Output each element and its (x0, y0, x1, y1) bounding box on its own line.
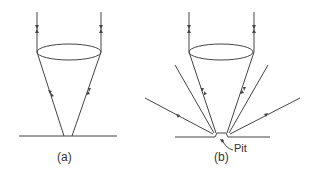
lens (189, 44, 253, 60)
lens (37, 44, 101, 60)
panel-b-label: (b) (214, 150, 229, 164)
panel-a (19, 12, 117, 136)
optical-diagram (0, 0, 312, 177)
panel-b (145, 12, 300, 150)
panel-a-label: (a) (57, 150, 72, 164)
pit-annotation: Pit (234, 142, 247, 154)
surface-with-pit (175, 133, 270, 137)
